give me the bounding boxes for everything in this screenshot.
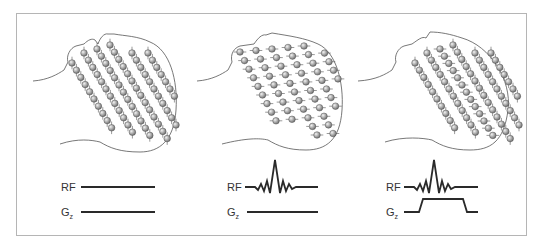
spin-sphere (412, 60, 419, 67)
spin-sphere (246, 66, 253, 73)
spin-sphere (138, 64, 145, 71)
spin-sphere (446, 60, 453, 67)
spin-sphere (507, 135, 514, 142)
spin-sphere (476, 85, 483, 92)
spin-sphere (138, 118, 145, 125)
spin-sphere (133, 57, 140, 64)
rf-waveform-sinc (245, 160, 318, 193)
spin-sphere (284, 107, 291, 114)
spin-sphere (459, 82, 466, 89)
spin-sphere (85, 57, 92, 64)
spin-sphere (262, 64, 269, 71)
spin-sphere (167, 86, 174, 93)
spin-array (69, 39, 180, 145)
spin-sphere (494, 114, 501, 121)
spin-sphere (503, 100, 510, 107)
spin-sphere (129, 50, 136, 57)
panel-2: RF Gz (197, 33, 344, 220)
spin-sphere (280, 99, 287, 106)
mri-diagram: RF Gz RF Gz RF Gz (0, 0, 541, 248)
spin-sphere (312, 96, 319, 103)
spin-array (234, 43, 345, 139)
spin-sphere (90, 64, 97, 71)
spin-sphere (468, 96, 475, 103)
spin-sphere (481, 92, 488, 99)
spin-sphere (107, 93, 114, 100)
spin-sphere (108, 125, 115, 132)
spin-sphere (107, 67, 114, 74)
spin-sphere (95, 103, 102, 110)
spin-array (412, 39, 523, 145)
spin-sphere (275, 90, 282, 97)
spin-sphere (476, 57, 483, 64)
spin-sphere (82, 81, 89, 88)
spin-sphere (321, 113, 328, 120)
spin-sphere (305, 51, 312, 58)
spin-sphere (81, 50, 88, 57)
spin-sphere (332, 103, 339, 110)
spin-sphere (321, 50, 328, 57)
spin-sphere (94, 71, 101, 78)
spin-sphere (459, 107, 466, 114)
spin-sphere (296, 97, 303, 104)
spin-sphere (301, 43, 308, 50)
spin-sphere (497, 64, 504, 71)
spin-sphere (488, 50, 495, 57)
spin-sphere (124, 71, 131, 78)
spin-sphere (112, 100, 119, 107)
spin-sphere (138, 92, 145, 99)
spin-sphere (129, 103, 136, 110)
spin-sphere (305, 115, 312, 122)
spin-sphere (116, 107, 123, 114)
spin-sphere (160, 100, 167, 107)
spin-sphere (168, 115, 175, 122)
spin-sphere (441, 53, 448, 60)
spin-sphere (298, 70, 305, 77)
spin-sphere (155, 93, 162, 100)
spin-sphere (330, 130, 337, 137)
spin-sphere (120, 63, 127, 70)
spin-sphere (438, 103, 445, 110)
spin-sphere (501, 71, 508, 78)
spin-sphere (287, 80, 294, 87)
spin-sphere (507, 107, 514, 114)
spin-sphere (255, 83, 262, 90)
spin-sphere (285, 44, 292, 51)
spin-sphere (116, 82, 123, 89)
spin-sphere (129, 78, 136, 85)
spin-sphere (441, 79, 448, 86)
panel-3: RF Gz (358, 32, 522, 220)
spin-sphere (73, 67, 80, 74)
spin-sphere (151, 114, 158, 121)
spin-sphere (485, 125, 492, 132)
gz-label: Gz (386, 206, 399, 220)
spin-sphere (162, 79, 169, 86)
spin-sphere (129, 129, 136, 136)
spin-sphere (463, 63, 470, 70)
spin-sphere (454, 49, 461, 56)
spin-sphere (103, 86, 110, 93)
spin-sphere (173, 122, 180, 129)
spin-sphere (450, 67, 457, 74)
spin-sphere (314, 132, 321, 139)
spin-sphere (489, 107, 496, 114)
spin-sphere (155, 121, 162, 128)
spin-sphere (98, 79, 105, 86)
spin-sphere (145, 50, 152, 57)
spin-sphere (505, 79, 512, 86)
spin-sphere (146, 107, 153, 114)
spin-sphere (98, 53, 105, 60)
spin-sphere (514, 93, 521, 100)
spin-sphere (472, 129, 479, 136)
spin-sphere (264, 100, 271, 107)
spin-sphere (266, 73, 273, 80)
spin-sphere (278, 63, 285, 70)
spin-sphere (450, 42, 457, 49)
spin-sphere (463, 115, 470, 122)
spin-sphere (125, 96, 132, 103)
spin-sphere (472, 50, 479, 57)
spin-sphere (437, 71, 444, 78)
spin-sphere (437, 46, 444, 53)
spin-sphere (120, 115, 127, 122)
spin-sphere (472, 78, 479, 85)
